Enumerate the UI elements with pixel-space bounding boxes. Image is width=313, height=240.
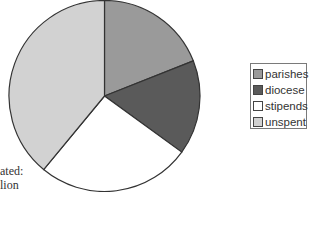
legend-item-parishes: parishes — [253, 66, 306, 82]
legend-label-parishes: parishes — [265, 68, 308, 80]
legend: parishes diocese stipends unspent — [250, 63, 307, 129]
legend-label-stipends: stipends — [265, 100, 308, 112]
legend-swatch-unspent — [253, 117, 263, 127]
legend-label-diocese: diocese — [265, 84, 305, 96]
legend-label-unspent: unspent — [265, 116, 306, 128]
annotation-line-1: ated: — [0, 165, 23, 178]
legend-item-stipends: stipends — [253, 98, 306, 114]
legend-item-unspent: unspent — [253, 114, 306, 130]
legend-swatch-stipends — [253, 101, 263, 111]
legend-swatch-parishes — [253, 69, 263, 79]
legend-item-diocese: diocese — [253, 82, 306, 98]
legend-swatch-diocese — [253, 85, 263, 95]
annotation-line-2: lion — [0, 179, 19, 192]
